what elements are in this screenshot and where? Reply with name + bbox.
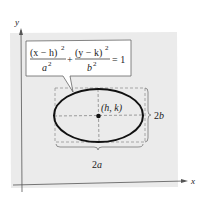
term2-numerator: (y − k) xyxy=(75,47,102,59)
center-label: (h, k) xyxy=(101,102,123,114)
term1-den-exponent: 2 xyxy=(48,60,52,68)
width-label: 2a xyxy=(92,159,102,170)
ellipse-diagram: y x (h, k) 2b 2a (x − h) 2 a 2 + (y − k)… xyxy=(0,0,202,198)
term2-den-exponent: 2 xyxy=(93,60,97,68)
x-axis-arrow-icon xyxy=(181,179,188,183)
term2-exponent: 2 xyxy=(105,44,109,52)
term2-denominator: b xyxy=(87,62,92,73)
plus-sign: + xyxy=(67,54,73,65)
height-label: 2b xyxy=(154,110,164,121)
equals-one: = 1 xyxy=(112,54,125,65)
center-point xyxy=(96,114,101,119)
term1-numerator: (x − h) xyxy=(30,47,57,59)
term1-exponent: 2 xyxy=(61,44,65,52)
x-axis-label: x xyxy=(190,176,195,186)
y-axis-label: y xyxy=(14,17,19,27)
y-axis-arrow-icon xyxy=(19,28,23,35)
term1-denominator: a xyxy=(42,62,47,73)
